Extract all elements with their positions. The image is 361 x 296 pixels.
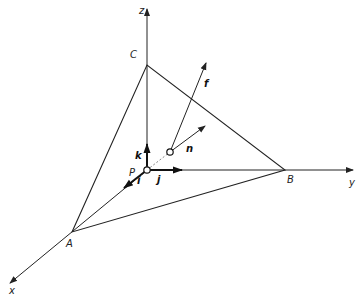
point-c-label: C <box>130 49 137 60</box>
diagram-canvas: z y x C B A P k j i n f <box>0 0 361 296</box>
plane-point <box>167 149 173 155</box>
i-vector-arrow <box>124 170 147 188</box>
f-vector-label: f <box>204 78 210 89</box>
point-p-label: P <box>129 167 136 178</box>
point-b-label: B <box>287 174 294 185</box>
x-axis-label: x <box>8 285 15 296</box>
origin-point-p <box>144 167 150 173</box>
i-vector-label: i <box>137 175 141 186</box>
y-axis-label: y <box>348 177 356 188</box>
z-axis-label: z <box>138 5 145 16</box>
n-vector-label: n <box>186 143 193 154</box>
k-vector-label: k <box>135 150 143 161</box>
plane-triangle-abc <box>72 65 285 232</box>
dashed-line-p-to-plane <box>147 152 170 170</box>
j-vector-label: j <box>155 174 161 185</box>
point-a-label: A <box>65 238 73 249</box>
